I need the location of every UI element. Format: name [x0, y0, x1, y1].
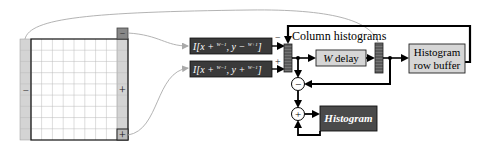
diagram-canvas: − − + + I[x + W−1, y − W+1] I[x + W−1, y…	[0, 0, 485, 152]
window-frame	[31, 39, 128, 140]
histogram-box: Histogram	[320, 106, 377, 131]
image-window: − − + +	[20, 28, 128, 142]
pixel-input-plus: I[x + W−1, y + W−1]	[190, 61, 272, 77]
top-pixel-minus: −	[120, 28, 126, 39]
left-column-minus: −	[22, 84, 28, 96]
svg-text:+: +	[295, 108, 301, 120]
input-sign-minus: −	[275, 32, 281, 43]
column-histogram-bar-2	[375, 43, 383, 73]
column-histograms-label: Column histograms	[292, 29, 387, 43]
curve-to-minus-input	[128, 33, 188, 46]
column-histogram-bar-1	[284, 44, 292, 72]
grid-lines	[20, 39, 128, 140]
histogram-feedback	[298, 122, 320, 135]
bottom-pixel-plus: +	[119, 128, 126, 142]
right-column-plus: +	[119, 83, 126, 97]
curve-to-plus-input	[128, 68, 188, 135]
row-buffer-line1: Histogram	[414, 46, 461, 58]
svg-text:Histogram: Histogram	[323, 112, 373, 124]
row-buffer-line2: row buffer	[414, 59, 461, 71]
input-sign-plus: +	[275, 56, 281, 67]
w-delay-box: W delay	[316, 50, 366, 66]
histogram-row-buffer: Histogram row buffer	[409, 44, 465, 73]
pixel-input-minus: I[x + W−1, y − W+1]	[190, 38, 272, 54]
subtract-node: −	[292, 78, 305, 91]
svg-text:−: −	[295, 78, 301, 90]
svg-text:W delay: W delay	[323, 52, 359, 64]
add-node: +	[292, 108, 305, 121]
